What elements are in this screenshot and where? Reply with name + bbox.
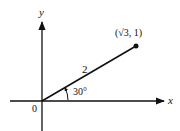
angle-label: 30°: [73, 86, 87, 97]
angle-arc-icon: [65, 88, 68, 100]
vector-endpoint: [134, 44, 139, 49]
y-axis-label: y: [38, 6, 44, 18]
vector-line: [42, 46, 136, 101]
vector-length-label: 2: [82, 63, 88, 75]
coordinate-diagram: y x 0 2 30° (√3, 1): [0, 0, 180, 131]
x-axis-label: x: [167, 94, 173, 106]
origin-label: 0: [32, 103, 37, 114]
endpoint-label: (√3, 1): [115, 27, 142, 39]
